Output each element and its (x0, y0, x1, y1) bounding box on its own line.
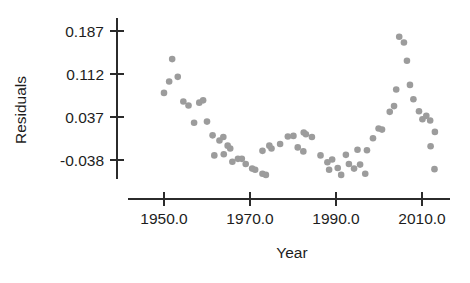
x-tick-label-3: 2010.0 (398, 210, 446, 227)
data-point (401, 39, 408, 46)
data-point (386, 109, 393, 116)
data-point (334, 165, 341, 172)
data-point (379, 126, 386, 133)
data-point (396, 33, 403, 40)
y-tick-label-3: -0.038 (60, 152, 104, 169)
data-point (351, 165, 358, 172)
data-point (227, 145, 234, 152)
data-point (431, 166, 438, 173)
data-point (294, 144, 301, 151)
data-point-group (161, 33, 439, 178)
x-tick-label-2: 1990.0 (312, 210, 360, 227)
data-point (427, 117, 434, 124)
data-point (266, 142, 273, 149)
data-point (277, 141, 284, 148)
data-point (410, 96, 417, 103)
data-point (191, 119, 198, 126)
data-point (290, 133, 297, 140)
data-point (211, 152, 218, 159)
data-point (263, 172, 270, 179)
data-point (391, 103, 398, 110)
data-point (166, 78, 173, 85)
data-point (370, 135, 377, 142)
data-point (242, 161, 249, 168)
data-point (407, 82, 414, 89)
data-point (169, 56, 176, 63)
data-point (200, 97, 207, 104)
data-point (161, 90, 168, 97)
y-axis-title: Residuals (12, 76, 29, 144)
data-point (220, 151, 227, 158)
y-tick-label-2: 0.037 (65, 109, 104, 126)
data-point (404, 58, 411, 65)
data-point (364, 147, 371, 154)
data-point (259, 148, 266, 155)
data-point (326, 166, 333, 173)
data-point (220, 134, 227, 141)
data-point (303, 131, 310, 138)
data-point (329, 156, 336, 163)
data-point (432, 129, 439, 136)
data-point (252, 166, 259, 173)
x-tick-label-0: 1950.0 (140, 210, 188, 227)
data-point (174, 74, 181, 81)
y-tick-label-0: 0.187 (65, 23, 104, 40)
data-point (338, 172, 345, 179)
scatter-plot-figure: 0.1870.1120.037-0.038Residuals1950.01970… (0, 0, 470, 283)
data-point (180, 98, 187, 105)
x-axis-title: Year (276, 244, 307, 261)
data-point (346, 161, 353, 168)
data-point (204, 118, 211, 125)
data-point (343, 152, 350, 159)
data-point (317, 152, 324, 159)
data-point (300, 148, 307, 155)
data-point (393, 86, 400, 93)
x-tick-label-1: 1970.0 (226, 210, 274, 227)
data-point (362, 170, 369, 177)
data-point (354, 146, 361, 153)
data-point (416, 108, 423, 115)
data-point (229, 158, 236, 165)
data-point (209, 132, 216, 139)
data-point (285, 133, 292, 140)
data-point (357, 161, 364, 168)
data-point (309, 134, 316, 141)
data-point (185, 102, 192, 109)
data-point (427, 143, 434, 150)
y-tick-label-1: 0.112 (66, 66, 104, 83)
chart-canvas: 0.1870.1120.037-0.038Residuals1950.01970… (0, 0, 470, 283)
